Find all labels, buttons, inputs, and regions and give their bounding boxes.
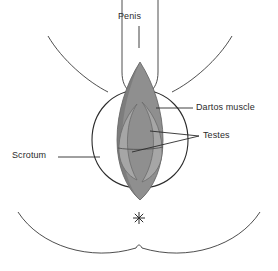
gluteal-cleft-peak-line: [136, 245, 142, 248]
anatomy-diagram: Penis Dartos muscle Testes Scrotum: [0, 0, 278, 271]
label-dartos-muscle: Dartos muscle: [196, 103, 255, 112]
left-groin-crease-line: [48, 36, 108, 92]
anatomy-illustration: [0, 0, 278, 271]
label-scrotum: Scrotum: [12, 151, 46, 160]
left-buttock-contour-line: [18, 212, 136, 253]
right-groin-crease-line: [172, 36, 232, 92]
right-buttock-contour-line: [142, 212, 260, 253]
label-penis: Penis: [118, 12, 141, 21]
label-testes: Testes: [203, 131, 230, 140]
anus-asterisk-icon: [133, 212, 145, 224]
